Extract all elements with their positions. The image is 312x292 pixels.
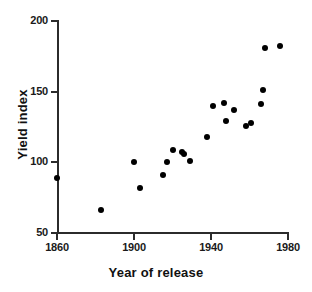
data-point [210, 103, 216, 109]
x-tick-label: 1940 [189, 241, 233, 253]
data-point [98, 207, 104, 213]
x-tick-label: 1980 [266, 241, 310, 253]
y-tick-label: 50 [14, 226, 48, 238]
y-tick-label-wrap: 200 [8, 14, 48, 26]
data-point [131, 159, 137, 165]
x-tick-label: 1900 [112, 241, 156, 253]
data-point [221, 100, 227, 106]
x-axis-title: Year of release [0, 265, 312, 280]
y-tick-label: 200 [14, 14, 48, 26]
y-tick-label-wrap: 50 [8, 226, 48, 238]
x-tick-label: 1860 [35, 241, 79, 253]
data-point [170, 147, 176, 153]
data-point [204, 134, 210, 140]
data-point [277, 43, 283, 49]
data-point [164, 159, 170, 165]
data-point [160, 172, 166, 178]
x-tick-mark [133, 234, 135, 240]
data-point [260, 87, 266, 93]
data-point [137, 185, 143, 191]
data-point [181, 151, 187, 157]
data-point [223, 118, 229, 124]
y-tick-mark [51, 20, 57, 22]
x-tick-mark [287, 234, 289, 240]
data-point [187, 158, 193, 164]
data-point [248, 120, 254, 126]
data-point [231, 107, 237, 113]
y-tick-mark [51, 161, 57, 163]
data-point [262, 45, 268, 51]
scatter-chart-figure: 50100150200 1860190019401980 Yield index… [0, 0, 312, 292]
data-point [243, 123, 249, 129]
data-point [258, 101, 264, 107]
x-axis-line [57, 232, 289, 234]
y-axis-line [57, 20, 59, 234]
x-tick-mark [210, 234, 212, 240]
data-point [179, 149, 185, 155]
x-tick-mark [56, 234, 58, 240]
y-tick-mark [51, 91, 57, 93]
y-axis-title: Yield index [15, 60, 30, 190]
